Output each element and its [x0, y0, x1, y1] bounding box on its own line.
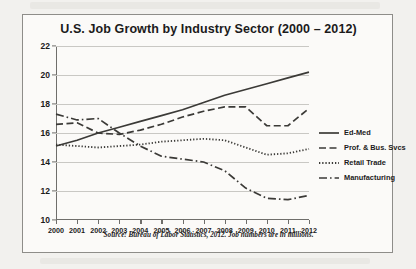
series-line-ed-med	[56, 72, 309, 146]
legend-swatch-ed-med-icon	[319, 129, 339, 137]
x-tick-mark	[267, 220, 268, 224]
series-line-manufacturing	[56, 114, 309, 200]
x-tick-mark	[77, 220, 78, 224]
x-tick-mark	[183, 220, 184, 224]
legend-label-retail-trade: Retail Trade	[344, 158, 386, 167]
y-tick-label: 22	[41, 41, 50, 51]
x-tick-mark	[309, 220, 310, 224]
chart-legend: Ed-MedProf. & Bus. SvcsRetail TradeManuf…	[319, 125, 391, 185]
x-tick-mark	[246, 220, 247, 224]
legend-swatch-prof-bus-svcs-icon	[319, 144, 339, 152]
y-tick-label: 10	[41, 215, 50, 225]
x-tick-mark	[56, 220, 57, 224]
series-line-prof-bus-svcs	[56, 107, 309, 135]
legend-swatch-retail-trade-icon	[319, 159, 339, 167]
x-tick-mark	[204, 220, 205, 224]
legend-label-ed-med: Ed-Med	[344, 128, 371, 137]
y-tick-label: 16	[41, 128, 50, 138]
y-tick-label: 14	[41, 157, 50, 167]
y-tick-label: 12	[41, 186, 50, 196]
x-tick-mark	[140, 220, 141, 224]
legend-label-prof-bus-svcs: Prof. & Bus. Svcs	[344, 143, 406, 152]
x-tick-mark	[288, 220, 289, 224]
x-tick-mark	[98, 220, 99, 224]
chart-figure: U.S. Job Growth by Industry Sector (2000…	[22, 14, 393, 253]
series-lines	[56, 46, 309, 220]
chart-title: U.S. Job Growth by Industry Sector (2000…	[23, 22, 394, 36]
legend-label-manufacturing: Manufacturing	[344, 173, 395, 182]
legend-item-retail-trade[interactable]: Retail Trade	[319, 155, 391, 170]
x-tick-mark	[161, 220, 162, 224]
legend-item-prof-bus-svcs[interactable]: Prof. & Bus. Svcs	[319, 140, 391, 155]
y-tick-label: 20	[41, 70, 50, 80]
x-tick-mark	[225, 220, 226, 224]
plot-area: 10121416182022 2000200120022003200420052…	[56, 46, 309, 220]
legend-item-ed-med[interactable]: Ed-Med	[319, 125, 391, 140]
legend-swatch-manufacturing-icon	[319, 174, 339, 182]
x-tick-mark	[119, 220, 120, 224]
source-note: Source: Bureau of Labor Statistics, 2012…	[23, 231, 394, 239]
series-line-retail-trade	[56, 139, 309, 155]
legend-item-manufacturing[interactable]: Manufacturing	[319, 170, 391, 185]
y-tick-label: 18	[41, 99, 50, 109]
